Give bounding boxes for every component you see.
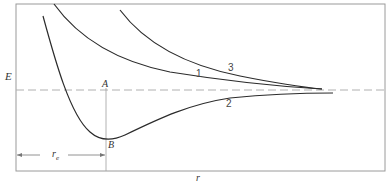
- curve-1-label: 1: [196, 69, 202, 79]
- re-arrowhead-left: [17, 153, 22, 157]
- curve-2-label: 2: [226, 99, 232, 109]
- y-axis-label: E: [5, 71, 12, 82]
- point-b-label: B: [108, 140, 114, 150]
- curve-3-label: 3: [228, 63, 234, 73]
- curve-3: [120, 10, 322, 89]
- plot-frame: [16, 4, 385, 171]
- equilibrium-distance-label: re: [52, 149, 59, 162]
- curve-2: [43, 16, 333, 139]
- re-arrowhead-right: [100, 153, 105, 157]
- curve-1: [54, 4, 322, 89]
- x-axis-label: r: [196, 173, 200, 182]
- point-a-label: A: [102, 79, 108, 89]
